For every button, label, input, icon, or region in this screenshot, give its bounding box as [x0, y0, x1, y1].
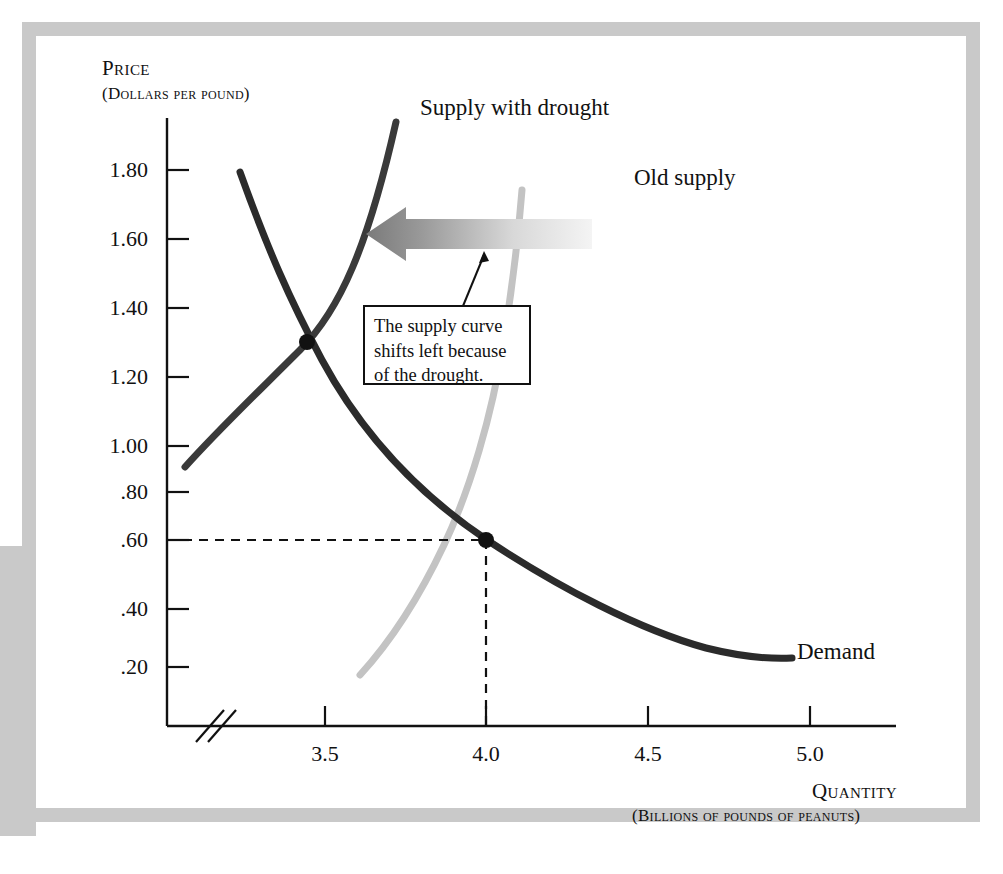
y-axis-ticks [167, 170, 189, 667]
equilibrium-point-new [299, 334, 315, 350]
curve-old-supply [360, 190, 522, 675]
x-tick-label-3.5: 3.5 [285, 741, 365, 766]
equilibrium-point-old [478, 532, 494, 548]
y-tick-label-1.80: 1.80 [48, 157, 148, 182]
y-axis-subtitle: (Dollars per pound) [102, 84, 250, 104]
annotation-leader-line [463, 251, 489, 306]
y-tick-label-0.40: .40 [48, 596, 148, 621]
x-tick-label-4.0: 4.0 [446, 741, 526, 766]
annotation-callout-text: The supply curve shifts left because of … [374, 314, 526, 388]
y-tick-label-0.80: .80 [48, 479, 148, 504]
x-axis-ticks [325, 706, 810, 726]
figure-page: Price (Dollars per pound) Quantity (Bill… [0, 0, 1003, 874]
x-tick-label-5.0: 5.0 [770, 741, 850, 766]
y-axis-title: Price [102, 56, 150, 80]
annotation-callout-box: The supply curve shifts left because of … [363, 305, 531, 385]
y-tick-label-1.40: 1.40 [48, 295, 148, 320]
x-axis-title: Quantity [812, 779, 897, 803]
y-tick-label-1.20: 1.20 [48, 364, 148, 389]
curve-label-supply-with-drought: Supply with drought [420, 95, 609, 121]
x-axis-subtitle: (Billions of pounds of peanuts) [632, 806, 860, 826]
x-tick-label-4.5: 4.5 [608, 741, 688, 766]
leftward-shift-arrow [366, 207, 592, 261]
curve-label-old-supply: Old supply [634, 165, 736, 191]
y-tick-label-1.00: 1.00 [48, 433, 148, 458]
curve-label-demand: Demand [797, 639, 875, 665]
y-tick-label-0.20: .20 [48, 654, 148, 679]
y-tick-label-0.60: .60 [48, 527, 148, 552]
y-tick-label-1.60: 1.60 [48, 226, 148, 251]
